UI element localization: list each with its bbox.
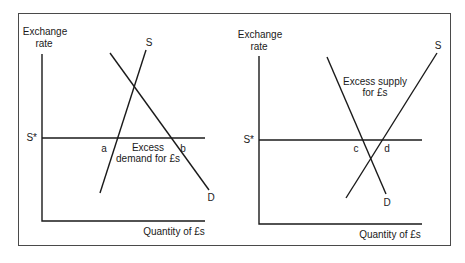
demand-curve: [110, 53, 209, 190]
annotation-line2: for £s: [362, 87, 387, 98]
demand-label: D: [383, 197, 390, 208]
y-axis-label-line1: Exchange: [238, 29, 283, 40]
diagram-frame: [19, 14, 451, 246]
diagram-canvas: Exchange rate S* S D a b Excess demand f…: [0, 0, 465, 263]
panel-excess-supply: Exchange rate S* S D c d Excess supply f…: [238, 29, 442, 240]
supply-curve: [346, 53, 437, 198]
annotation-line2: demand for £s: [116, 153, 180, 164]
panel-excess-demand: Exchange rate S* S D a b Excess demand f…: [23, 26, 215, 237]
point-label-b: b: [180, 143, 186, 154]
peg-rate-label: S*: [243, 134, 254, 145]
point-label-a: a: [101, 143, 107, 154]
y-axis-label-line2: rate: [250, 41, 268, 52]
demand-label: D: [207, 192, 214, 203]
y-axis-label-line1: Exchange: [23, 26, 68, 37]
annotation-line1: Excess: [132, 142, 164, 153]
y-axis-label-line2: rate: [35, 38, 53, 49]
point-label-d: d: [384, 143, 390, 154]
peg-rate-label: S*: [26, 132, 37, 143]
point-label-c: c: [354, 143, 359, 154]
x-axis-label: Quantity of £s: [359, 229, 421, 240]
supply-label: S: [435, 40, 442, 51]
x-axis-label: Quantity of £s: [143, 226, 205, 237]
supply-label: S: [146, 37, 153, 48]
annotation-line1: Excess supply: [343, 76, 407, 87]
